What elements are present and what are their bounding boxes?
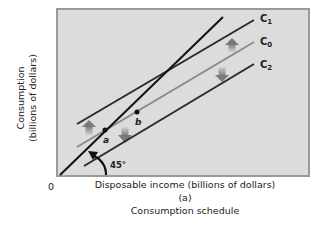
point-b-label: b <box>135 117 142 127</box>
origin-label: 0 <box>48 181 54 192</box>
angle-label: 45° <box>110 160 126 170</box>
x-axis-label: Disposable income (billions of dollars) <box>60 178 310 191</box>
y-axis-label: Consumption (billions of dollars) <box>15 54 38 142</box>
svg-text:(billions of dollars): (billions of dollars) <box>27 54 38 142</box>
point-a <box>103 128 108 133</box>
x-axis-caption: Disposable income (billions of dollars) … <box>60 178 310 217</box>
point-b <box>135 110 140 115</box>
chart-caption: Consumption schedule <box>60 204 310 217</box>
point-a-label: a <box>103 135 109 145</box>
svg-text:Consumption: Consumption <box>15 67 26 130</box>
panel-label: (a) <box>60 191 310 204</box>
plot-area <box>57 9 309 176</box>
